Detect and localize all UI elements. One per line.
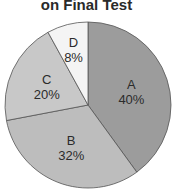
- slice-label: A: [127, 77, 136, 92]
- pie-chart: A40%B32%C20%D8%: [0, 0, 173, 195]
- slice-label: B: [67, 133, 76, 148]
- slice-label: C: [42, 72, 51, 87]
- slice-percent: 32%: [58, 148, 84, 163]
- slice-percent: 20%: [34, 87, 60, 102]
- slice-percent: 8%: [64, 50, 83, 65]
- slice-label: D: [69, 35, 78, 50]
- slice-percent: 40%: [118, 92, 144, 107]
